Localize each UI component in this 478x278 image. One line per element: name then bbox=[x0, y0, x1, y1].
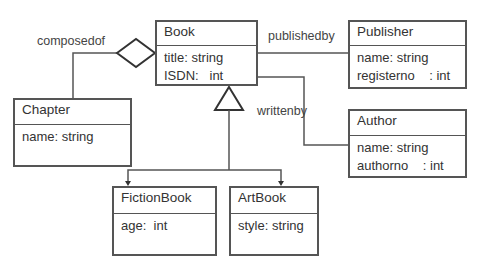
class-publisher-attr: registerno : int bbox=[357, 67, 465, 85]
class-book-name: Book bbox=[157, 22, 256, 46]
class-author: Author name: string authorno : int bbox=[348, 109, 467, 178]
aggregation-diamond-icon bbox=[117, 39, 155, 67]
class-chapter-name: Chapter bbox=[15, 100, 130, 125]
class-author-name: Author bbox=[350, 111, 465, 136]
class-publisher: Publisher name: string registerno : int bbox=[348, 20, 467, 89]
class-chapter: Chapter name: string bbox=[13, 98, 132, 167]
label-writtenby: writtenby bbox=[257, 104, 307, 118]
label-composedof: composedof bbox=[37, 34, 105, 48]
class-author-attr: name: string bbox=[357, 139, 465, 157]
class-publisher-name: Publisher bbox=[350, 22, 465, 46]
class-chapter-attr: name: string bbox=[22, 128, 130, 146]
class-book-attr: ISDN: int bbox=[164, 67, 256, 85]
class-book: Book title: string ISDN: int bbox=[155, 20, 258, 86]
generalization-branch bbox=[128, 170, 281, 184]
class-fictionbook-attr: age: int bbox=[121, 217, 215, 235]
class-artbook: ArtBook style: string bbox=[229, 186, 319, 256]
class-artbook-name: ArtBook bbox=[231, 188, 317, 214]
label-publishedby: publishedby bbox=[268, 29, 335, 43]
class-book-attr: title: string bbox=[164, 49, 256, 67]
class-publisher-attr: name: string bbox=[357, 49, 465, 67]
composedof-connector bbox=[73, 53, 117, 98]
class-author-attr: authorno : int bbox=[357, 157, 465, 175]
generalization-triangle-icon bbox=[215, 87, 243, 110]
class-fictionbook: FictionBook age: int bbox=[112, 186, 217, 256]
class-artbook-attr: style: string bbox=[238, 217, 317, 235]
class-fictionbook-name: FictionBook bbox=[114, 188, 215, 214]
